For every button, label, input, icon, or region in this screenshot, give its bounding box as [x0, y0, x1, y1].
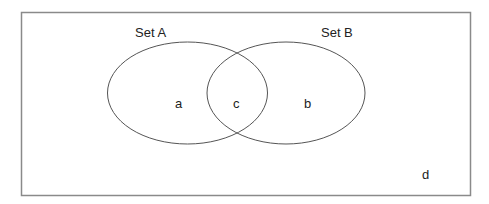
intersection-c-label: c [233, 96, 240, 111]
universe-rectangle [22, 13, 471, 196]
region-a-label: a [175, 96, 183, 111]
set-b-label: Set B [321, 25, 353, 40]
set-a-label: Set A [135, 25, 166, 40]
universe-d-label: d [422, 167, 429, 182]
venn-diagram: Set A Set B a c b d [0, 0, 489, 204]
region-b-label: b [304, 96, 311, 111]
